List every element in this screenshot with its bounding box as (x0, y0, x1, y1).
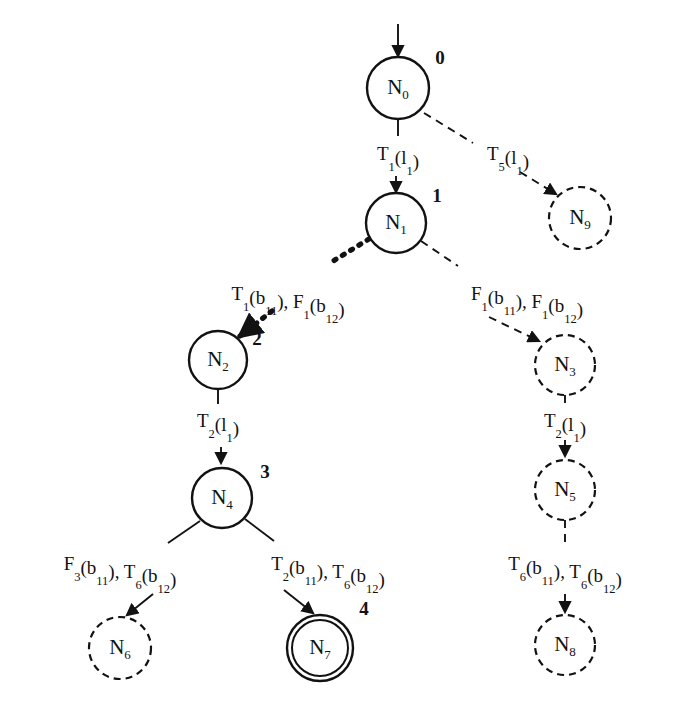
edge-n4-to-n6 (168, 521, 200, 543)
diagram-canvas: N00N11N22N43N6N74N9N3N5N8 T1(l1)T5(l1)T1… (0, 0, 678, 713)
node-n7-index: 4 (359, 598, 369, 619)
edge-n0-to-n9 (424, 113, 473, 143)
node-n2[interactable]: N22 (189, 328, 262, 389)
node-n5[interactable]: N5 (535, 460, 595, 520)
edge-n4-to-n7 (245, 519, 274, 541)
edge-label-n4-to-n7: T2(b11), T6(b12) (271, 553, 385, 596)
edge-arrow-n4-to-n7 (284, 590, 313, 613)
node-n2-index: 2 (252, 328, 262, 349)
edge-label-n1-to-n2: T1(b11), F1(b12) (231, 283, 344, 326)
node-n3[interactable]: N3 (535, 335, 595, 395)
node-n0[interactable]: N00 (367, 47, 445, 119)
node-n6[interactable]: N6 (89, 617, 151, 679)
edge-n1-to-n3 (421, 241, 458, 266)
edge-n1-to-n2 (330, 239, 369, 263)
node-n4[interactable]: N43 (192, 461, 270, 528)
node-n7[interactable]: N74 (287, 598, 369, 681)
edge-arrow-n4-to-n6 (127, 594, 153, 615)
edge-label-n3-to-n5: T2(l1) (544, 410, 586, 445)
edge-label-n0-to-n1: T1(l1) (377, 143, 419, 178)
edge-label-n5-to-n8: T6(b11), T6(b12) (508, 553, 622, 596)
edge-arrow-n0-to-n9 (520, 172, 556, 194)
edge-arrow-n1-to-n3 (489, 317, 539, 341)
edge-label-n4-to-n6: F3(b11), T6(b12) (64, 553, 177, 596)
node-n0-index: 0 (435, 47, 445, 68)
edges-layer (127, 24, 565, 615)
node-n8[interactable]: N8 (535, 615, 595, 675)
node-n1[interactable]: N11 (366, 185, 442, 253)
node-n1-index: 1 (432, 185, 442, 206)
state-transition-diagram: N00N11N22N43N6N74N9N3N5N8 T1(l1)T5(l1)T1… (0, 0, 678, 713)
node-n9[interactable]: N9 (549, 187, 611, 249)
edge-label-n1-to-n3: F1(b11), F1(b12) (471, 283, 583, 326)
edge-label-n2-to-n4: T2(l1) (197, 410, 239, 445)
node-n4-index: 3 (260, 461, 270, 482)
